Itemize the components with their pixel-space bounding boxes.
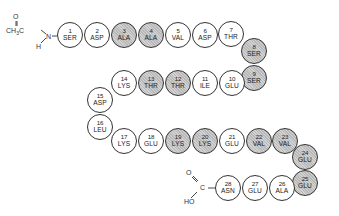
residue-4: 4ALA — [138, 22, 164, 48]
residue-3: 3ALA — [111, 22, 137, 48]
ch-text: CH — [6, 27, 16, 34]
residue-7: 7THR — [218, 21, 244, 47]
residue-24: 24GLU — [292, 144, 318, 170]
residue-9: 9SER — [241, 65, 267, 91]
n-term-methyl: CH3C — [6, 27, 24, 36]
residue-amino-acid: GLU — [225, 83, 239, 90]
residue-14: 14LYS — [111, 70, 137, 96]
residue-25: 25GLU — [292, 170, 318, 196]
residue-amino-acid: VAL — [253, 141, 265, 148]
residue-1: 1SER — [57, 22, 83, 48]
residue-19: 19LYS — [165, 128, 191, 154]
n-term-nitrogen: N — [46, 33, 51, 40]
residue-6: 6ASP — [192, 22, 218, 48]
carbonyl-c: C — [19, 27, 24, 34]
residue-15: 15ASP — [87, 87, 113, 113]
residue-amino-acid: SER — [63, 35, 77, 42]
residue-11: 11ILE — [192, 70, 218, 96]
c-term-oxygen: O — [186, 169, 191, 176]
residue-amino-acid: ASP — [93, 100, 107, 107]
c-term-carbon: C — [200, 184, 205, 191]
residue-amino-acid: LYS — [118, 141, 130, 148]
residue-amino-acid: LYS — [172, 141, 184, 148]
residue-amino-acid: LYS — [199, 141, 211, 148]
residue-amino-acid: GLU — [225, 141, 239, 148]
residue-amino-acid: ILE — [200, 83, 210, 90]
residue-20: 20LYS — [192, 128, 218, 154]
residue-amino-acid: VAL — [172, 35, 184, 42]
peptide-diagram: O CH3C N H O C HO 1SER2ASP3ALA4ALA5VAL6A… — [0, 0, 339, 216]
residue-22: 22VAL — [246, 128, 272, 154]
residue-amino-acid: THR — [144, 83, 158, 90]
residue-amino-acid: GLU — [248, 188, 262, 195]
residue-26: 26ALA — [269, 175, 295, 201]
residue-28: 28ASN — [215, 175, 241, 201]
residue-10: 10GLU — [219, 70, 245, 96]
residue-12: 12THR — [165, 70, 191, 96]
residue-amino-acid: ASN — [221, 188, 235, 195]
c-term-hydroxyl: HO — [184, 198, 195, 205]
residue-27: 27GLU — [242, 175, 268, 201]
residue-8: 8SER — [241, 38, 267, 64]
residue-amino-acid: GLU — [144, 141, 158, 148]
residue-18: 18GLU — [138, 128, 164, 154]
residue-amino-acid: SER — [247, 51, 261, 58]
residue-16: 16LEU — [87, 114, 113, 140]
residue-amino-acid: ASP — [90, 35, 104, 42]
residue-5: 5VAL — [165, 22, 191, 48]
residue-amino-acid: ASP — [198, 35, 212, 42]
residue-amino-acid: ALA — [118, 35, 131, 42]
residue-amino-acid: GLU — [298, 157, 312, 164]
residue-amino-acid: LYS — [118, 83, 130, 90]
residue-amino-acid: ALA — [145, 35, 158, 42]
residue-2: 2ASP — [84, 22, 110, 48]
residue-amino-acid: LEU — [93, 127, 106, 134]
residue-amino-acid: VAL — [279, 141, 291, 148]
residue-17: 17LYS — [111, 128, 137, 154]
residue-amino-acid: THR — [224, 34, 238, 41]
residue-amino-acid: ALA — [276, 188, 289, 195]
residue-21: 21GLU — [219, 128, 245, 154]
residue-amino-acid: GLU — [298, 183, 312, 190]
residue-13: 13THR — [138, 70, 164, 96]
n-term-oxygen: O — [13, 13, 18, 20]
residue-amino-acid: SER — [247, 78, 261, 85]
n-term-hydrogen: H — [36, 43, 41, 50]
residue-amino-acid: THR — [171, 83, 185, 90]
